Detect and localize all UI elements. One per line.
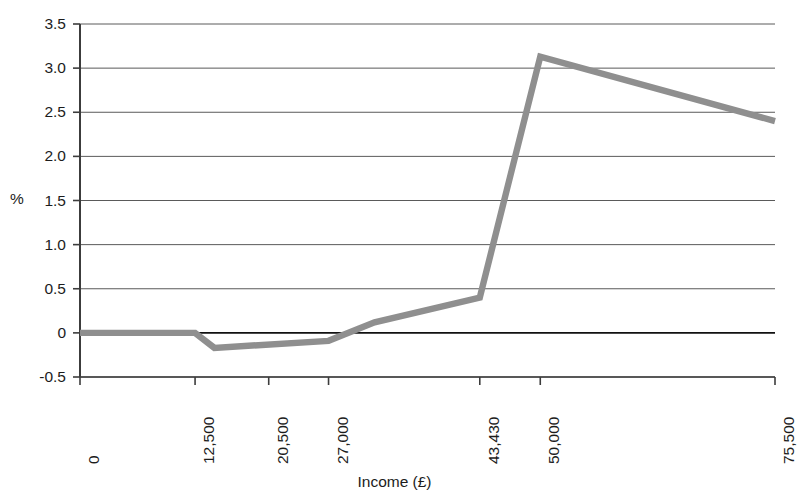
y-tick-marks (73, 24, 80, 377)
x-tick-label: 50,000 (546, 417, 562, 464)
x-axis-title: Income (£) (0, 474, 789, 490)
y-tick-label: 1.0 (44, 237, 66, 253)
y-tick-label: 2.0 (44, 148, 66, 164)
y-tick-label: 3.0 (44, 60, 66, 76)
y-tick-label: 0.5 (44, 281, 66, 297)
data-series (80, 57, 775, 348)
x-tick-label: 20,500 (275, 417, 291, 464)
y-tick-label: 1.5 (44, 193, 66, 209)
x-tick-marks (80, 377, 775, 385)
y-tick-label: 0 (57, 325, 66, 341)
gridlines (80, 24, 775, 377)
y-tick-label: 3.5 (44, 16, 66, 32)
y-tick-label: -0.5 (39, 369, 66, 385)
y-tick-label: 2.5 (44, 104, 66, 120)
x-tick-label: 43,430 (486, 417, 502, 464)
x-tick-label: 12,500 (201, 417, 217, 464)
x-tick-label: 0 (86, 455, 102, 464)
x-tick-label: 75,500 (781, 417, 797, 464)
x-axis-tick-labels: 012,50020,50027,00043,43050,00075,500 (0, 386, 789, 476)
x-tick-label: 27,000 (335, 417, 351, 464)
series-line (80, 57, 775, 348)
y-axis-title: % (10, 191, 24, 207)
